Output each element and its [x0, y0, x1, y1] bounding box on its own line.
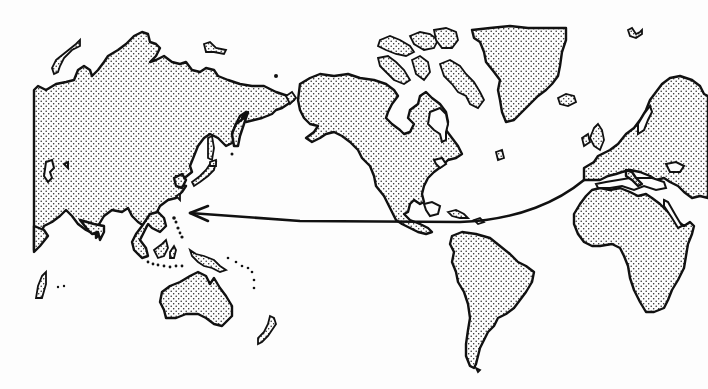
arabia [34, 226, 48, 252]
gulf-of-mexico [424, 202, 440, 216]
philippines [172, 216, 183, 238]
new-zealand [258, 316, 276, 344]
newfoundland [496, 150, 504, 160]
ireland [582, 134, 590, 146]
arctic-island-4 [412, 56, 430, 80]
madagascar [36, 272, 46, 298]
sakhalin [208, 136, 214, 160]
arctic-island-1 [378, 36, 414, 56]
iceland [558, 94, 576, 106]
sulawesi [170, 246, 176, 258]
baffin-island [440, 60, 484, 108]
kuril-island [231, 153, 234, 156]
sri-lanka [96, 234, 98, 238]
taiwan [176, 194, 180, 200]
africa [574, 188, 694, 312]
severnaya-zemlya [204, 42, 226, 54]
tierra-del-fuego [476, 368, 480, 372]
world-map [0, 0, 708, 389]
indonesia-chain [147, 261, 184, 269]
australia [160, 272, 232, 326]
arctic-island-3 [378, 56, 410, 84]
map-canvas [0, 0, 708, 389]
hokkaido [210, 160, 216, 166]
novaya-zemlya [52, 40, 80, 74]
british-isles [590, 124, 604, 150]
borneo [154, 240, 168, 258]
ellesmere-island [434, 28, 458, 48]
greenland [472, 26, 566, 122]
south-america [450, 232, 534, 368]
cuba [448, 210, 468, 218]
mascarene-islands [57, 285, 65, 288]
svalbard [628, 28, 642, 38]
new-guinea [190, 250, 226, 272]
arctic-island-2 [410, 32, 438, 50]
korea [174, 174, 186, 188]
wrangel-island [274, 74, 278, 78]
pacific-islands [227, 257, 256, 290]
